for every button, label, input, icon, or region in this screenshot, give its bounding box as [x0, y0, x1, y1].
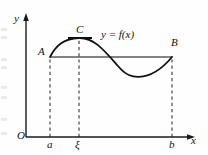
point-label-b: B — [171, 37, 178, 48]
x-axis-label: x — [191, 135, 196, 146]
tick-label-b: b — [169, 139, 175, 150]
y-axis — [23, 13, 29, 137]
point-label-a: A — [38, 46, 45, 57]
point-label-c: C — [76, 24, 83, 35]
rolle-theorem-figure: y x O A B C y = f(x) a ξ b — [0, 0, 208, 155]
y-axis-label: y — [14, 13, 19, 24]
tick-label-a: a — [47, 139, 53, 150]
tick-label-xi: ξ — [75, 139, 80, 150]
diagram-canvas — [0, 0, 208, 155]
origin-label: O — [17, 130, 25, 141]
curve-equation-label: y = f(x) — [101, 29, 134, 40]
